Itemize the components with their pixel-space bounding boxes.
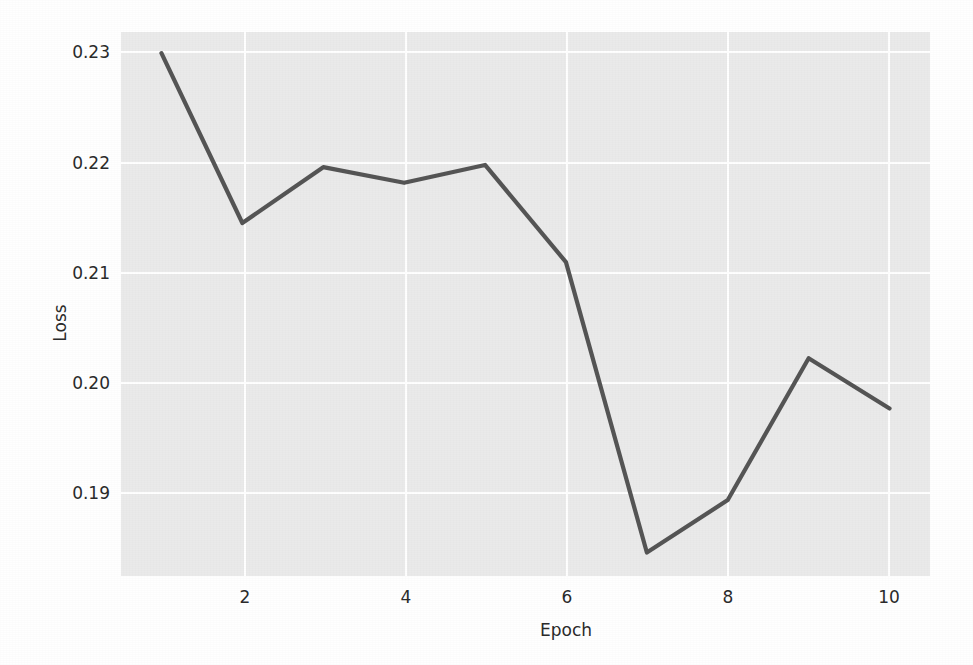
y-tick-label-0.21: 0.21 [72, 263, 110, 283]
x-tick-label-2: 2 [240, 587, 251, 607]
y-tick-label-0.23: 0.23 [72, 42, 110, 62]
chart-canvas: 0.23 0.22 0.21 0.20 0.19 2 4 6 8 10 Epoc… [0, 0, 973, 665]
y-tick-label-0.20: 0.20 [72, 373, 110, 393]
x-axis-tick-labels: 2 4 6 8 10 [240, 587, 900, 607]
loss-curve-figure: 0.23 0.22 0.21 0.20 0.19 2 4 6 8 10 Epoc… [0, 0, 973, 665]
y-tick-label-0.19: 0.19 [72, 483, 110, 503]
y-axis-tick-labels: 0.23 0.22 0.21 0.20 0.19 [72, 42, 110, 503]
x-tick-label-10: 10 [878, 587, 900, 607]
x-tick-label-4: 4 [401, 587, 412, 607]
x-tick-label-8: 8 [723, 587, 734, 607]
x-tick-label-6: 6 [562, 587, 573, 607]
y-axis-title: Loss [50, 304, 70, 341]
y-tick-label-0.22: 0.22 [72, 153, 110, 173]
x-axis-title: Epoch [540, 620, 592, 640]
plot-area-background [121, 32, 930, 576]
